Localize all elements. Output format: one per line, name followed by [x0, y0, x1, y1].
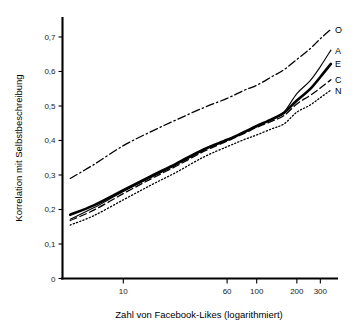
y-tick-label: 0,3 [44, 171, 56, 180]
chart-figure: 00,10,20,30,40,50,60,7 1060100200300 OAE… [0, 0, 358, 329]
series-label-e: E [335, 59, 341, 69]
y-tick-label: 0,7 [44, 33, 56, 42]
y-tick-label: 0,5 [44, 102, 56, 111]
x-axis-title: Zahl von Facebook-Likes (logarithmiert) [115, 309, 282, 320]
x-tick-label: 100 [250, 287, 264, 296]
x-tick-label: 200 [290, 287, 304, 296]
x-tick-label: 60 [223, 287, 232, 296]
series-label-c: C [335, 75, 342, 85]
y-axis-title: Korrelation mit Selbstbeschreibung [13, 74, 24, 221]
y-tick-label: 0,2 [44, 205, 56, 214]
x-tick-label: 10 [119, 287, 128, 296]
series-label-n: N [335, 86, 342, 96]
series-label-o: O [335, 25, 342, 35]
y-tick-label: 0,6 [44, 67, 56, 76]
y-tick-label: 0,4 [44, 136, 56, 145]
x-tick-label: 300 [314, 287, 328, 296]
y-tick-label: 0,1 [44, 240, 56, 249]
series-label-a: A [335, 46, 341, 56]
y-tick-label: 0 [51, 275, 56, 284]
chart-canvas: 00,10,20,30,40,50,60,7 1060100200300 OAE… [0, 0, 358, 329]
